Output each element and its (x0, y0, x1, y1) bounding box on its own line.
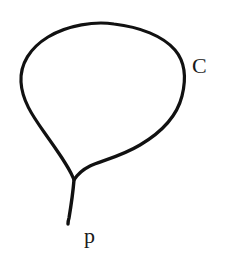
curve-label-c: C (192, 55, 207, 77)
background-rect (0, 0, 225, 258)
cusp-label-p: p (84, 225, 95, 247)
curve-drawing (0, 0, 225, 258)
figure-canvas: C p (0, 0, 225, 258)
